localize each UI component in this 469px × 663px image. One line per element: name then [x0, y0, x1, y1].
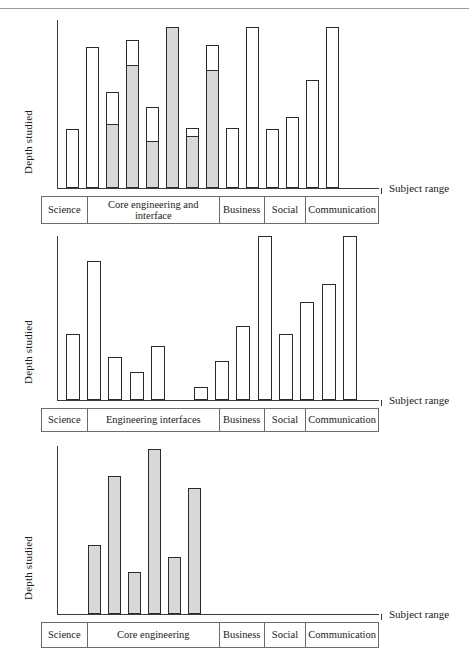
bar — [87, 261, 101, 400]
bar — [300, 302, 314, 400]
bar — [166, 27, 179, 188]
bar — [246, 27, 259, 188]
category-label-business: Business — [220, 197, 265, 223]
bar — [66, 129, 79, 188]
bar — [215, 361, 229, 400]
category-label-core-engineering-and-interface: Core engineering and interface — [88, 197, 220, 223]
chart-3-category-band: ScienceCore engineeringBusinessSocialCom… — [41, 622, 379, 648]
chart-1-x-axis-label: Subject range — [389, 182, 449, 194]
bar — [266, 129, 279, 188]
bar — [236, 326, 250, 400]
category-label-communication: Communication — [306, 197, 378, 223]
bar — [226, 128, 239, 188]
bar — [186, 128, 199, 188]
category-label-core-engineering: Core engineering — [88, 623, 220, 647]
chart-3-x-axis-tick — [381, 614, 382, 620]
chart-1-y-axis-label: Depth studied — [22, 110, 34, 174]
category-label-science: Science — [42, 409, 88, 431]
bar-grey-segment — [126, 65, 139, 188]
bar — [306, 80, 319, 188]
chart-1: Depth studied Subject range ScienceCore … — [0, 14, 469, 230]
chart-3-x-axis — [57, 614, 379, 615]
category-label-science: Science — [42, 623, 88, 647]
category-label-business: Business — [220, 409, 265, 431]
bar — [206, 45, 219, 188]
chart-1-x-axis — [57, 188, 379, 189]
bar — [146, 107, 159, 188]
bar — [343, 236, 357, 400]
bar — [286, 117, 299, 188]
chart-1-x-axis-tick — [381, 188, 382, 194]
chart-1-category-band: ScienceCore engineering and interfaceBus… — [41, 196, 379, 224]
bar — [326, 27, 339, 188]
category-label-social: Social — [265, 197, 307, 223]
chart-2-x-axis-label: Subject range — [389, 394, 449, 406]
bar — [151, 346, 165, 400]
bar — [168, 557, 181, 614]
bar — [106, 92, 119, 188]
page-top-rule — [0, 8, 469, 9]
bar — [128, 572, 141, 614]
chart-2-x-axis — [57, 400, 379, 401]
chart-2-plot-area — [58, 236, 378, 400]
chart-3-plot-area — [58, 446, 378, 614]
bar — [66, 334, 80, 400]
bar-grey-segment — [206, 70, 219, 188]
bar — [188, 488, 201, 614]
chart-2-x-axis-tick — [381, 400, 382, 406]
chart-3-y-axis-label: Depth studied — [22, 536, 34, 600]
category-label-social: Social — [265, 409, 307, 431]
category-label-communication: Communication — [306, 409, 378, 431]
bar — [108, 476, 121, 614]
chart-2: Depth studied Subject range ScienceEngin… — [0, 232, 469, 440]
bar — [86, 47, 99, 188]
bar — [148, 449, 161, 614]
bar — [130, 372, 144, 400]
category-label-business: Business — [220, 623, 265, 647]
bar — [258, 236, 272, 400]
chart-1-plot-area — [58, 20, 378, 188]
chart-3: Depth studied Subject range ScienceCore … — [0, 442, 469, 660]
category-label-engineering-interfaces: Engineering interfaces — [88, 409, 220, 431]
bar-grey-segment — [146, 141, 159, 188]
bar — [126, 40, 139, 188]
chart-3-x-axis-label: Subject range — [389, 608, 449, 620]
category-label-communication: Communication — [306, 623, 378, 647]
bar-grey-segment — [186, 136, 199, 188]
bar — [322, 284, 336, 400]
bar — [108, 357, 122, 400]
bar-grey-segment — [106, 124, 119, 188]
bar — [194, 387, 208, 400]
bar — [279, 334, 293, 400]
category-label-social: Social — [265, 623, 307, 647]
chart-2-y-axis-label: Depth studied — [22, 320, 34, 384]
category-label-science: Science — [42, 197, 88, 223]
bar — [88, 545, 101, 614]
chart-2-category-band: ScienceEngineering interfacesBusinessSoc… — [41, 408, 379, 432]
